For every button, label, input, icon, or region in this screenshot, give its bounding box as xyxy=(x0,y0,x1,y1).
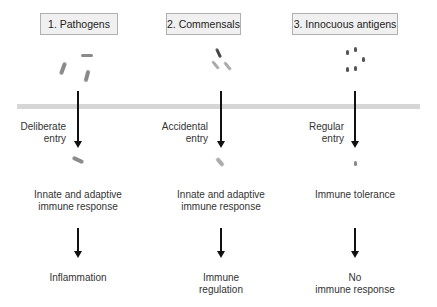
pathogens-box: 1. Pathogens xyxy=(40,13,118,35)
response-label-commensals: Innate and adaptive immune response xyxy=(160,189,282,213)
entry-label-pathogens: Deliberate entry xyxy=(4,121,66,145)
outcome-arrow-commensals xyxy=(220,228,222,253)
entry-label-commensals: Accidental entry xyxy=(150,121,208,145)
outcome-label-commensals: Immune regulation xyxy=(160,272,282,296)
outcome-arrow-antigens xyxy=(354,228,356,253)
entry-arrow-commensals xyxy=(220,91,222,143)
entry-arrow-pathogens xyxy=(77,91,79,143)
entry-arrow-antigens xyxy=(354,91,356,143)
response-label-pathogens: Innate and adaptive immune response xyxy=(17,189,139,213)
commensal-bacterium-icon xyxy=(215,157,224,167)
entry-label-antigens: Regular entry xyxy=(290,121,344,145)
innocuous-antigens-box: 3. Innocuous antigens xyxy=(292,13,398,35)
outcome-label-pathogens: Inflammation xyxy=(17,272,139,284)
outcome-arrow-pathogens xyxy=(77,228,79,253)
antigen-particle-icon xyxy=(354,161,357,166)
outcome-label-antigens: No immune response xyxy=(294,272,416,296)
response-label-antigens: Immune tolerance xyxy=(294,189,416,201)
rod-bacterium-icon xyxy=(72,156,85,165)
commensals-box: 2. Commensals xyxy=(166,13,241,35)
